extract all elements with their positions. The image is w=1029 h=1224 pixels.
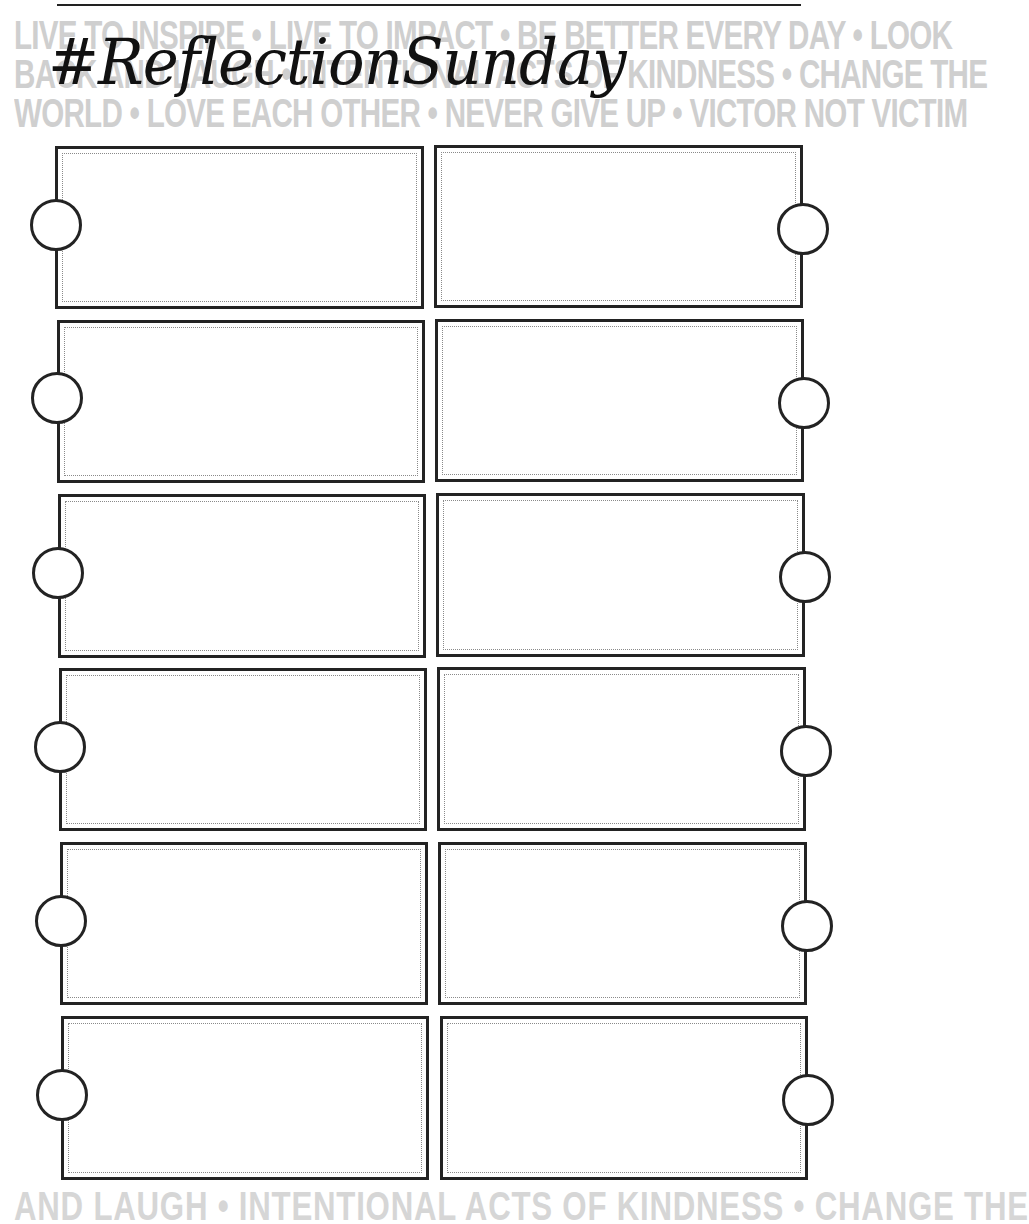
reflection-box-right-5[interactable] <box>438 842 807 1005</box>
writing-area[interactable] <box>66 675 420 824</box>
page-title: #ReflectionSunday <box>48 10 668 130</box>
ring-hole-icon <box>35 895 87 947</box>
writing-area[interactable] <box>67 849 421 998</box>
writing-area[interactable] <box>445 849 800 998</box>
reflection-box-left-4[interactable] <box>59 668 427 831</box>
ring-hole-icon <box>781 900 833 952</box>
ring-hole-icon <box>32 547 84 599</box>
writing-area[interactable] <box>65 501 419 651</box>
ring-hole-icon <box>34 721 86 773</box>
writing-area[interactable] <box>442 326 797 475</box>
writing-area[interactable] <box>64 327 418 476</box>
ring-hole-icon <box>778 377 830 429</box>
ring-hole-icon <box>36 1069 88 1121</box>
writing-area[interactable] <box>62 153 417 302</box>
page-title-text: #ReflectionSunday <box>48 22 626 102</box>
reflection-box-left-6[interactable] <box>61 1016 429 1180</box>
ring-hole-icon <box>777 203 829 255</box>
ring-hole-icon <box>31 372 83 424</box>
ring-hole-icon <box>30 199 82 251</box>
reflection-box-right-1[interactable] <box>434 145 803 308</box>
reflection-box-right-4[interactable] <box>437 667 806 831</box>
reflection-box-right-6[interactable] <box>440 1016 808 1180</box>
ring-hole-icon <box>782 1074 834 1126</box>
reflection-box-left-3[interactable] <box>58 494 426 658</box>
reflection-box-left-5[interactable] <box>60 842 428 1005</box>
reflection-box-left-2[interactable] <box>57 320 425 483</box>
background-quote-bottom: AND LAUGH • INTENTIONAL ACTS OF KINDNESS… <box>14 1186 888 1224</box>
reflection-box-right-2[interactable] <box>435 319 804 482</box>
ring-hole-icon <box>779 551 831 603</box>
writing-area[interactable] <box>443 500 798 650</box>
writing-area[interactable] <box>447 1023 801 1173</box>
writing-area[interactable] <box>444 674 799 824</box>
writing-area[interactable] <box>68 1023 422 1173</box>
writing-area[interactable] <box>441 152 796 301</box>
reflection-box-right-3[interactable] <box>436 493 805 657</box>
ring-hole-icon <box>780 725 832 777</box>
reflection-box-left-1[interactable] <box>55 146 424 309</box>
top-rule <box>57 4 801 6</box>
